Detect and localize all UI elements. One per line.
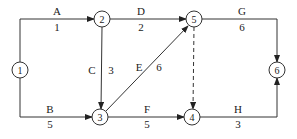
edge-h-duration: 3 bbox=[235, 118, 241, 130]
edge-c-activity: C bbox=[88, 64, 95, 76]
edge-e: E 6 bbox=[106, 26, 188, 111]
node-1: 1 bbox=[12, 62, 28, 78]
edge-c-duration: 3 bbox=[108, 64, 114, 76]
edge-d: D 2 bbox=[110, 5, 186, 33]
edge-d-duration: 2 bbox=[138, 21, 144, 33]
node-1-label: 1 bbox=[18, 65, 23, 76]
node-3: 3 bbox=[92, 109, 108, 125]
node-4-label: 4 bbox=[190, 112, 195, 123]
edge-h: H 3 bbox=[200, 78, 277, 130]
node-2: 2 bbox=[94, 11, 110, 27]
edge-f-activity: F bbox=[144, 103, 150, 115]
edge-g: G 6 bbox=[202, 5, 277, 62]
node-2-label: 2 bbox=[100, 14, 105, 25]
edge-g-activity: G bbox=[238, 5, 246, 17]
node-3-label: 3 bbox=[98, 112, 103, 123]
edge-h-activity: H bbox=[234, 103, 242, 115]
node-4: 4 bbox=[184, 109, 200, 125]
edge-f-duration: 5 bbox=[144, 118, 150, 130]
edge-g-duration: 6 bbox=[239, 21, 245, 33]
edge-f: F 5 bbox=[108, 103, 184, 130]
edge-e-activity: E bbox=[136, 61, 143, 73]
edge-b-duration: 5 bbox=[47, 118, 53, 130]
node-5-label: 5 bbox=[192, 14, 197, 25]
network-diagram: A 1 B 5 C 3 D 2 E 6 F 5 G 6 bbox=[0, 0, 297, 139]
node-6: 6 bbox=[269, 62, 285, 78]
node-6-label: 6 bbox=[275, 65, 280, 76]
node-5: 5 bbox=[186, 11, 202, 27]
edge-dummy bbox=[193, 27, 194, 109]
edge-b: B 5 bbox=[20, 78, 92, 130]
edge-e-duration: 6 bbox=[156, 61, 162, 73]
edge-a-activity: A bbox=[53, 5, 61, 17]
edge-a: A 1 bbox=[20, 5, 94, 62]
edge-b-activity: B bbox=[46, 103, 53, 115]
edge-c: C 3 bbox=[88, 27, 114, 109]
edge-d-activity: D bbox=[137, 5, 145, 17]
edge-a-duration: 1 bbox=[54, 21, 60, 33]
